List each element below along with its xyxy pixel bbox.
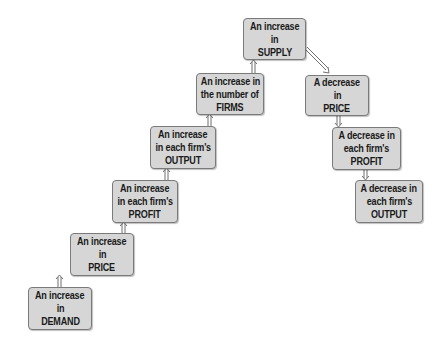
box-text-line: in each firm's [117,195,172,208]
box-firms-up: An increase inthe number ofFIRMS [196,73,264,115]
box-output-down: A decrease ineach firm'sOUTPUT [355,180,423,223]
box-text-line: in [333,89,341,102]
arrow-price-down-to-profit-down [335,116,342,127]
flowchart-canvas: An increaseinDEMANDAn increaseinPRICEAn … [0,0,443,350]
box-text-line: An increase [35,289,84,302]
box-profit-down: A decrease ineach firm'sPROFIT [332,127,401,170]
box-text-line: each firm's [344,142,389,155]
box-text-line: in [271,33,279,46]
box-price-up: An increaseinPRICE [70,233,134,276]
box-text-line: in [56,302,64,315]
box-text-line: A decrease [314,76,360,89]
box-text-line: An increase [158,128,207,141]
box-text-line: An increase [120,182,169,195]
arrow-output-to-firms [206,114,213,126]
box-text-line: DEMAND [41,315,80,328]
box-text-line: PRICE [324,102,351,115]
box-demand-up: An increaseinDEMAND [28,287,92,330]
box-text-line: PROFIT [129,208,161,221]
arrow-firms-to-supply [250,60,257,73]
arrow-demand-to-price [56,275,63,287]
box-text-line: FIRMS [216,101,243,114]
box-text-line: A decrease in [361,182,417,195]
box-text-line: An increase in [200,75,259,88]
box-text-line: An increase [77,235,126,248]
box-text-line: PRICE [89,261,116,274]
arrow-profit-to-output [163,168,170,180]
box-price-down: A decreaseinPRICE [305,75,369,116]
box-text-line: SUPPLY [257,46,291,59]
box-text-line: each firm's [366,195,411,208]
box-text-line: the number of [201,88,259,101]
box-text-line: An increase [250,20,299,33]
arrow-supply-to-price-down [305,47,329,73]
box-text-line: OUTPUT [165,154,201,167]
box-supply-up: An increaseinSUPPLY [243,18,306,60]
box-output-up: An increasein each firm'sOUTPUT [150,126,216,169]
arrow-profit-down-to-output-down [362,170,369,180]
box-text-line: OUTPUT [371,208,407,221]
arrow-price-to-profit [120,222,127,233]
box-text-line: PROFIT [350,155,382,168]
box-text-line: A decrease in [338,129,394,142]
box-text-line: in [98,248,106,261]
box-text-line: in each firm's [155,141,210,154]
box-profit-up: An increasein each firm'sPROFIT [112,180,178,223]
